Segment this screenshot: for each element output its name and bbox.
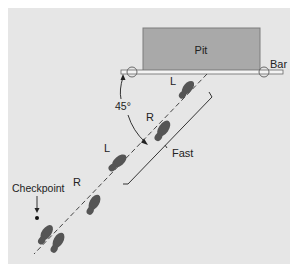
angle-label: 45° <box>115 100 131 112</box>
footprint-label-L-mid: L <box>104 142 110 154</box>
footprint-label-R-bottom: R <box>73 176 81 188</box>
footprint-label-R-top: R <box>146 111 154 123</box>
pit: Pit <box>143 28 260 71</box>
pit-label: Pit <box>195 44 208 56</box>
bar-label: Bar <box>270 58 287 70</box>
checkpoint-dot <box>35 216 39 220</box>
fast-label: Fast <box>172 147 193 159</box>
checkpoint-label: Checkpoint <box>12 182 65 194</box>
pit-approach-diagram: Pit Bar 45° Fast L R <box>0 0 297 272</box>
footprint-label-L-top: L <box>170 75 176 87</box>
